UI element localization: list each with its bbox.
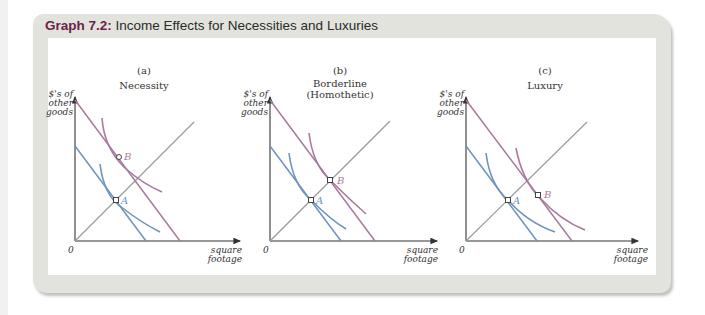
point-a — [114, 198, 119, 203]
x-axis-label-2: footage — [403, 254, 438, 264]
x-axis-label-2: footage — [207, 254, 242, 264]
panel-c-title: Luxury — [527, 80, 563, 91]
point-b-label: B — [336, 175, 344, 186]
point-a — [506, 198, 511, 203]
origin-label: 0 — [263, 245, 269, 255]
point-a-label: A — [315, 195, 323, 206]
budget-line-higher — [466, 100, 572, 241]
point-b-label: B — [123, 151, 131, 162]
panel-c-letter: (c) — [538, 65, 552, 76]
budget-line-original — [75, 146, 146, 241]
y-axis-label-3: goods — [46, 107, 73, 117]
x-axis-label-2: footage — [613, 254, 648, 264]
point-b — [328, 178, 333, 183]
graphs-canvas: (a) Necessity $'s of other goods 0 squar… — [0, 0, 705, 315]
point-a — [309, 198, 314, 203]
panel-b-title: Borderline — [313, 78, 367, 89]
origin-label: 0 — [68, 245, 74, 255]
panel-c-luxury: (c) Luxury $'s of other goods 0 square f… — [437, 65, 648, 264]
panel-a-title: Necessity — [119, 80, 169, 91]
y-axis-label-3: goods — [241, 107, 268, 117]
panel-b-letter: (b) — [333, 65, 347, 76]
indifference-curve-b — [102, 118, 162, 192]
income-expansion-ray — [75, 122, 194, 241]
y-axis-label-3: goods — [437, 107, 464, 117]
panel-b-subtitle: (Homothetic) — [306, 89, 373, 100]
panel-a-necessity: (a) Necessity $'s of other goods 0 squar… — [46, 65, 242, 264]
point-b-label: B — [543, 189, 551, 200]
panel-b-borderline: (b) Borderline (Homothetic) $'s of other… — [241, 65, 438, 264]
point-a-label: A — [512, 195, 520, 206]
point-b — [536, 193, 541, 198]
origin-label: 0 — [459, 245, 465, 255]
point-b — [117, 155, 122, 160]
point-a-label: A — [120, 195, 128, 206]
panel-a-letter: (a) — [137, 65, 151, 76]
